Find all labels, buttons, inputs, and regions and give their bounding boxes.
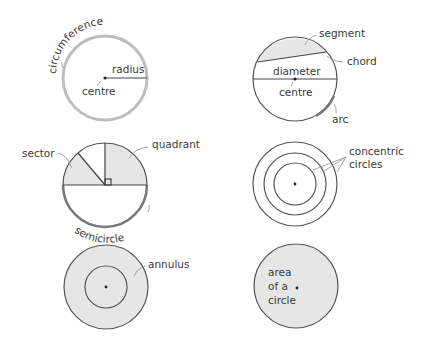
concentric-label-line2: circles: [349, 158, 382, 170]
arc-label: arc: [332, 113, 349, 125]
centre-label: centre: [82, 85, 116, 97]
area-label-line3: circle: [268, 294, 296, 306]
circumference-panel: circumference radius centre: [46, 15, 147, 120]
radius-label: radius: [112, 63, 144, 75]
sector-label: sector: [22, 147, 55, 159]
chord-label: chord: [347, 55, 377, 67]
annulus-label: annulus: [148, 258, 189, 270]
sector-panel: sector quadrant semicircle: [22, 138, 200, 245]
semicircle-pointer: [148, 205, 149, 212]
chord-panel: segment chord diameter centre arc: [253, 27, 377, 125]
centre-dot: [105, 286, 108, 289]
sector-region: [63, 153, 105, 185]
segment-label: segment: [319, 27, 365, 39]
arc-pointer: [334, 104, 336, 113]
semicircle-highlight: [63, 185, 147, 227]
parts-of-circle-diagram: circumference radius centre segment chor…: [0, 0, 421, 349]
area-panel: area of a circle: [254, 244, 338, 328]
centre-dot: [296, 287, 299, 290]
diameter-label: diameter: [273, 65, 321, 77]
area-label-line1: area: [268, 266, 291, 278]
centre-dot: [294, 183, 297, 186]
circumference-pointer: [62, 62, 63, 68]
centre-dot: [103, 76, 106, 79]
concentric-panel: concentric circles: [253, 142, 404, 226]
annulus-panel: annulus: [64, 245, 189, 329]
circumference-label: circumference: [46, 15, 104, 75]
chord-pointer: [327, 56, 343, 62]
area-label-line2: of a: [268, 280, 288, 292]
centre-label: centre: [279, 86, 313, 98]
quadrant-label: quadrant: [152, 138, 200, 150]
concentric-label-line1: concentric: [349, 145, 404, 157]
centre-dot: [293, 77, 296, 80]
